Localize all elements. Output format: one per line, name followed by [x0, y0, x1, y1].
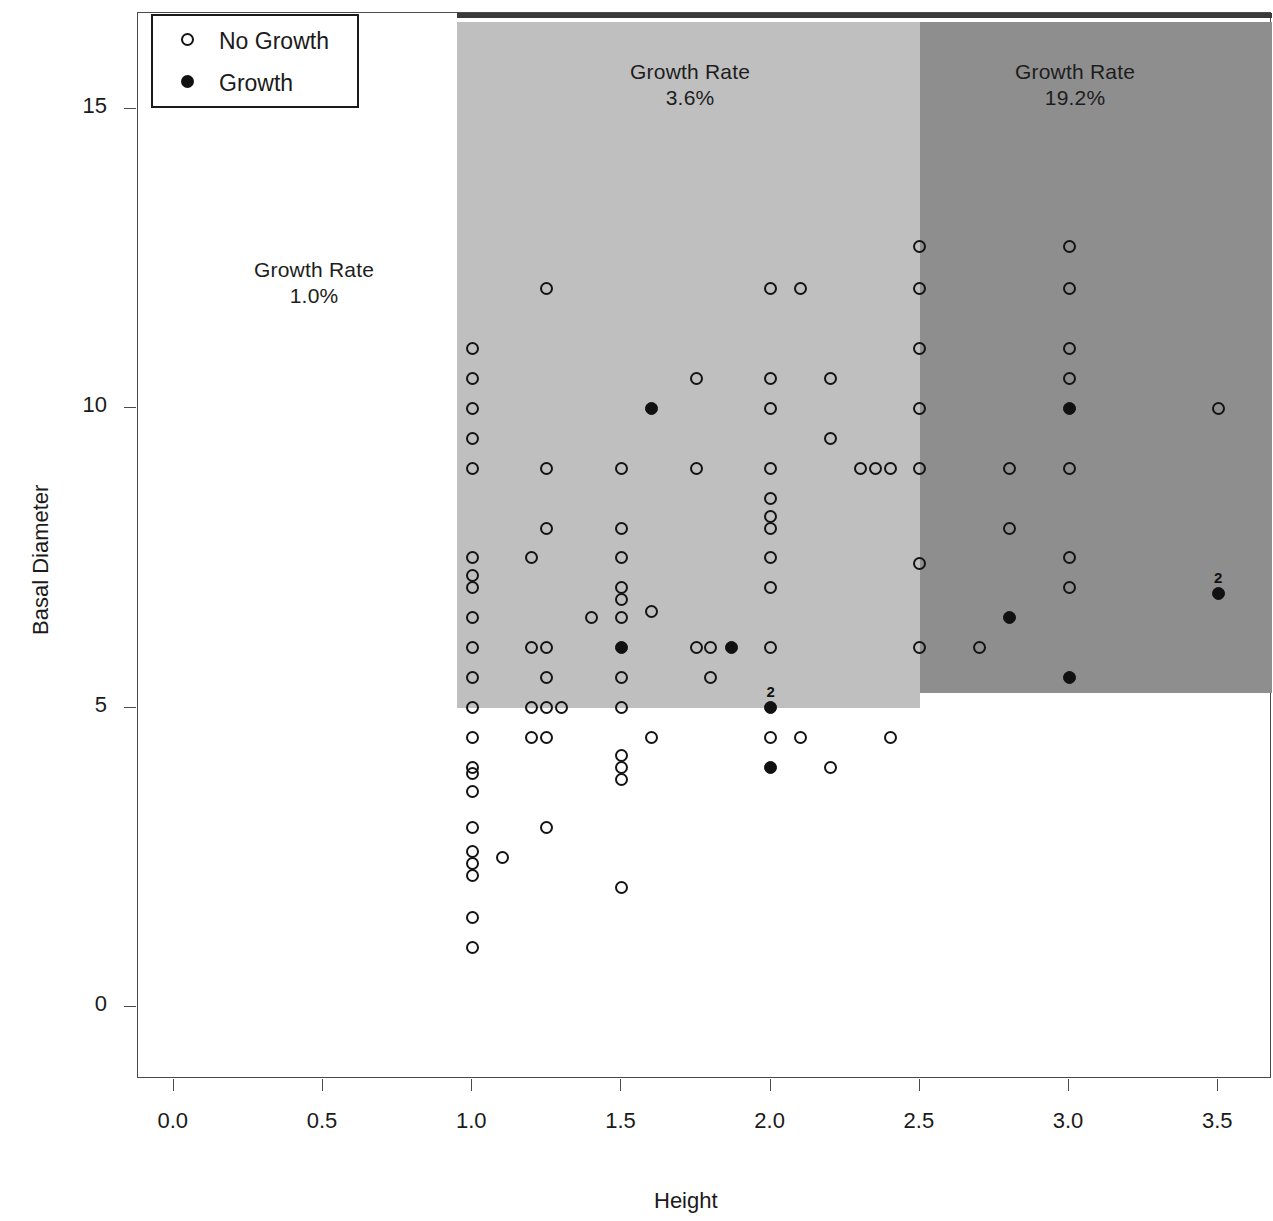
y-tick-label: 5: [7, 692, 107, 718]
data-point-no-growth: [466, 342, 479, 355]
growth-rate-region-mid: [457, 22, 920, 708]
data-point-no-growth: [466, 462, 479, 475]
data-point-no-growth: [764, 731, 777, 744]
data-point-no-growth: [615, 701, 628, 714]
data-point-no-growth: [466, 372, 479, 385]
data-point-no-growth: [525, 731, 538, 744]
data-point-no-growth: [615, 881, 628, 894]
data-point-growth: [645, 402, 658, 415]
region-header-band: [457, 13, 1272, 18]
data-point-no-growth: [466, 641, 479, 654]
data-point-growth: [764, 761, 777, 774]
legend-item-no-growth: No Growth: [153, 22, 357, 60]
point-count-label: 2: [1214, 569, 1222, 586]
data-point-no-growth: [466, 845, 479, 858]
x-tick-mark: [173, 1079, 174, 1091]
data-point-no-growth: [466, 671, 479, 684]
data-point-no-growth: [690, 372, 703, 385]
data-point-no-growth: [466, 402, 479, 415]
x-tick-label: 2.0: [710, 1108, 830, 1134]
x-tick-label: 0.0: [113, 1108, 233, 1134]
data-point-no-growth: [764, 462, 777, 475]
data-point-no-growth: [1003, 462, 1016, 475]
data-point-no-growth: [764, 372, 777, 385]
data-point-growth: [1063, 671, 1076, 684]
data-point-no-growth: [764, 522, 777, 535]
data-point-no-growth: [645, 731, 658, 744]
data-point-no-growth: [540, 522, 553, 535]
annotation-region-low: Growth Rate 1.0%: [184, 257, 444, 309]
data-point-no-growth: [466, 857, 479, 870]
x-tick-mark: [471, 1079, 472, 1091]
x-tick-mark: [1217, 1079, 1218, 1091]
y-tick-label: 0: [7, 991, 107, 1017]
legend: No Growth Growth: [151, 14, 359, 108]
data-point-no-growth: [794, 282, 807, 295]
y-tick-mark: [124, 1006, 136, 1007]
data-point-no-growth: [466, 731, 479, 744]
data-point-no-growth: [466, 767, 479, 780]
y-tick-mark: [124, 108, 136, 109]
x-tick-label: 3.0: [1008, 1108, 1128, 1134]
data-point-no-growth: [690, 462, 703, 475]
data-point-no-growth: [794, 731, 807, 744]
data-point-no-growth: [615, 462, 628, 475]
x-tick-mark: [620, 1079, 621, 1091]
data-point-growth: [764, 701, 777, 714]
x-tick-label: 0.5: [262, 1108, 382, 1134]
data-point-no-growth: [1063, 240, 1076, 253]
data-point-no-growth: [496, 851, 509, 864]
plot-area: 22 Growth Rate 1.0%Growth Rate 3.6%Growt…: [137, 12, 1271, 1078]
annotation-region-high: Growth Rate 19.2%: [945, 59, 1205, 111]
x-tick-label: 1.0: [411, 1108, 531, 1134]
y-tick-label: 10: [7, 392, 107, 418]
x-tick-label: 3.5: [1157, 1108, 1273, 1134]
data-point-no-growth: [824, 432, 837, 445]
data-point-no-growth: [466, 941, 479, 954]
growth-scatter-figure: 22 Growth Rate 1.0%Growth Rate 3.6%Growt…: [0, 0, 1273, 1221]
y-tick-mark: [124, 707, 136, 708]
data-point-no-growth: [913, 462, 926, 475]
data-point-growth: [1063, 402, 1076, 415]
data-point-no-growth: [764, 492, 777, 505]
data-point-no-growth: [466, 911, 479, 924]
data-point-no-growth: [884, 731, 897, 744]
data-point-no-growth: [1063, 282, 1076, 295]
data-point-no-growth: [540, 821, 553, 834]
x-tick-mark: [1068, 1079, 1069, 1091]
x-tick-mark: [919, 1079, 920, 1091]
data-point-no-growth: [824, 372, 837, 385]
data-point-no-growth: [540, 462, 553, 475]
data-point-no-growth: [540, 731, 553, 744]
data-point-no-growth: [555, 701, 568, 714]
data-point-no-growth: [1003, 522, 1016, 535]
legend-label-no-growth: No Growth: [219, 28, 329, 55]
data-point-no-growth: [884, 462, 897, 475]
data-point-no-growth: [466, 701, 479, 714]
x-axis-title: Height: [654, 1188, 718, 1214]
data-point-no-growth: [466, 785, 479, 798]
filled-circle-icon: [181, 74, 194, 92]
data-point-no-growth: [466, 821, 479, 834]
data-point-no-growth: [690, 641, 703, 654]
legend-label-growth: Growth: [219, 70, 293, 97]
data-point-no-growth: [1063, 372, 1076, 385]
data-point-no-growth: [615, 773, 628, 786]
data-point-no-growth: [540, 701, 553, 714]
y-tick-label: 15: [7, 93, 107, 119]
data-point-no-growth: [1063, 462, 1076, 475]
data-point-no-growth: [854, 462, 867, 475]
x-tick-label: 1.5: [560, 1108, 680, 1134]
y-tick-mark: [124, 407, 136, 408]
data-point-no-growth: [764, 402, 777, 415]
annotation-region-mid: Growth Rate 3.6%: [560, 59, 820, 111]
data-point-no-growth: [615, 522, 628, 535]
x-tick-mark: [770, 1079, 771, 1091]
data-point-no-growth: [466, 432, 479, 445]
data-point-no-growth: [1212, 402, 1225, 415]
x-tick-label: 2.5: [859, 1108, 979, 1134]
data-point-no-growth: [1063, 581, 1076, 594]
open-circle-icon: [181, 32, 194, 50]
data-point-no-growth: [824, 761, 837, 774]
x-tick-mark: [322, 1079, 323, 1091]
